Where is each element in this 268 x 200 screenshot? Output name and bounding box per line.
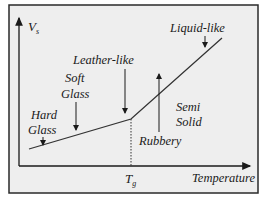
annotation-semi-solid: Semi Solid <box>176 100 202 129</box>
svg-text:Glass: Glass <box>28 123 57 137</box>
x-axis-label: Temperature <box>192 171 255 185</box>
svg-text:Rubbery: Rubbery <box>138 134 182 148</box>
svg-text:Leather-like: Leather-like <box>72 53 134 67</box>
glass-transition-diagram: Vs Temperature Tg Hard Glass Soft Glass … <box>0 0 268 200</box>
svg-text:Soft: Soft <box>65 71 85 85</box>
svg-text:Liquid-like: Liquid-like <box>169 21 225 35</box>
svg-text:Glass: Glass <box>61 87 90 101</box>
svg-text:Semi: Semi <box>176 100 201 114</box>
svg-text:Solid: Solid <box>176 115 202 129</box>
svg-text:Hard: Hard <box>30 108 58 122</box>
